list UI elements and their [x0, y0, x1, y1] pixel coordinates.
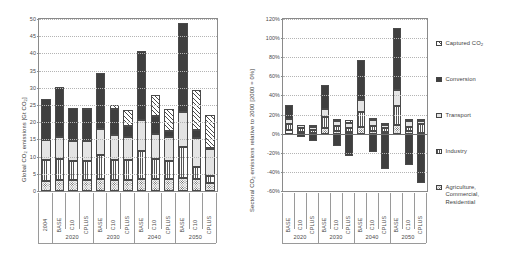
legend-item-transport[interactable]: Transport: [436, 112, 471, 119]
bar-segment-agri[interactable]: [55, 180, 65, 191]
bar-segment-captured[interactable]: [405, 119, 413, 121]
bar-segment-industry[interactable]: [309, 130, 317, 133]
bar-segment-captured[interactable]: [417, 119, 425, 121]
bar-segment-transport[interactable]: [151, 134, 161, 158]
legend-item-agri[interactable]: Agriculture,Commercial,Residential: [436, 184, 479, 206]
bar-segment-agri[interactable]: [393, 125, 401, 134]
bar-segment-conversion[interactable]: [405, 134, 413, 166]
bar-column[interactable]: [381, 19, 389, 191]
bar-segment-conversion[interactable]: [55, 87, 65, 137]
bar-segment-agri[interactable]: [82, 180, 92, 191]
bar-segment-agri[interactable]: [205, 183, 215, 191]
bar-segment-transport[interactable]: [381, 125, 389, 128]
bar-segment-captured[interactable]: [369, 118, 377, 120]
bar-segment-industry[interactable]: [96, 155, 106, 179]
bar-segment-industry[interactable]: [68, 161, 78, 180]
bar-segment-agri[interactable]: [137, 179, 147, 191]
bar-segment-transport[interactable]: [96, 129, 106, 155]
bar-segment-conversion[interactable]: [151, 116, 161, 134]
bar-segment-captured[interactable]: [205, 115, 215, 148]
bar-segment-transport[interactable]: [178, 112, 188, 147]
bar-segment-captured[interactable]: [164, 109, 174, 130]
bar-segment-transport[interactable]: [82, 141, 92, 161]
bar-segment-captured[interactable]: [192, 90, 202, 131]
bar-segment-transport[interactable]: [321, 109, 329, 118]
bar-segment-transport[interactable]: [285, 119, 293, 124]
legend-item-conversion[interactable]: Conversion: [436, 76, 476, 83]
bar-segment-transport[interactable]: [417, 121, 425, 124]
bar-segment-industry[interactable]: [417, 124, 425, 133]
bar-segment-industry[interactable]: [123, 160, 133, 179]
bar-segment-agri[interactable]: [192, 179, 202, 191]
bar-segment-agri[interactable]: [178, 178, 188, 191]
bar-segment-industry[interactable]: [55, 159, 65, 180]
bar-column[interactable]: [333, 19, 341, 191]
bar-segment-conversion[interactable]: [137, 51, 147, 120]
bar-segment-conversion[interactable]: [82, 109, 92, 141]
bar-segment-transport[interactable]: [68, 141, 78, 162]
bar-segment-transport[interactable]: [192, 138, 202, 167]
bar-segment-agri[interactable]: [164, 179, 174, 191]
bar-segment-conversion[interactable]: [68, 108, 78, 141]
bar-column[interactable]: [309, 19, 317, 191]
bar-segment-transport[interactable]: [137, 120, 147, 151]
bar-segment-conversion[interactable]: [96, 73, 106, 129]
bar-segment-industry[interactable]: [110, 160, 120, 180]
bar-column[interactable]: [297, 19, 305, 191]
bar-segment-transport[interactable]: [345, 123, 353, 128]
bar-segment-agri[interactable]: [41, 181, 51, 191]
bar-segment-captured[interactable]: [82, 108, 92, 110]
bar-segment-conversion[interactable]: [357, 60, 365, 100]
bar-segment-transport[interactable]: [297, 125, 305, 128]
bar-segment-transport[interactable]: [369, 120, 377, 126]
legend-item-industry[interactable]: Industry: [436, 148, 467, 155]
bar-segment-transport[interactable]: [333, 121, 341, 126]
bar-column[interactable]: [357, 19, 365, 191]
bar-segment-transport[interactable]: [357, 100, 365, 111]
bar-segment-industry[interactable]: [321, 117, 329, 128]
bar-segment-industry[interactable]: [41, 160, 51, 180]
bar-segment-conversion[interactable]: [417, 134, 425, 184]
bar-segment-conversion[interactable]: [321, 85, 329, 109]
bar-column[interactable]: [417, 19, 425, 191]
bar-segment-transport[interactable]: [393, 90, 401, 106]
bar-segment-conversion[interactable]: [381, 134, 389, 169]
bar-segment-conversion[interactable]: [309, 134, 317, 142]
bar-segment-captured[interactable]: [309, 125, 317, 127]
bar-segment-industry[interactable]: [164, 161, 174, 180]
bar-segment-industry[interactable]: [333, 126, 341, 131]
bar-segment-industry[interactable]: [405, 127, 413, 131]
bar-column[interactable]: [393, 19, 401, 191]
bar-column[interactable]: [369, 19, 377, 191]
bar-segment-conversion[interactable]: [285, 105, 293, 119]
bar-column[interactable]: [321, 19, 329, 191]
bar-segment-agri[interactable]: [357, 127, 365, 134]
bar-segment-conversion[interactable]: [192, 130, 202, 138]
bar-segment-transport[interactable]: [309, 127, 317, 130]
bar-segment-conversion[interactable]: [123, 126, 133, 137]
bar-segment-agri[interactable]: [110, 180, 120, 191]
legend-item-captured[interactable]: Captured CO2: [436, 40, 483, 47]
bar-segment-industry[interactable]: [381, 128, 389, 132]
bar-segment-industry[interactable]: [285, 124, 293, 130]
bar-segment-industry[interactable]: [151, 159, 161, 180]
bar-segment-agri[interactable]: [96, 179, 106, 191]
bar-column[interactable]: [405, 19, 413, 191]
bar-segment-agri[interactable]: [123, 180, 133, 191]
bar-segment-industry[interactable]: [369, 126, 377, 131]
bar-segment-transport[interactable]: [205, 149, 215, 176]
bar-segment-captured[interactable]: [345, 120, 353, 123]
bar-segment-industry[interactable]: [297, 128, 305, 132]
bar-segment-conversion[interactable]: [369, 134, 377, 152]
bar-segment-agri[interactable]: [151, 179, 161, 191]
bar-segment-captured[interactable]: [123, 110, 133, 126]
bar-segment-captured[interactable]: [381, 123, 389, 125]
bar-segment-conversion[interactable]: [393, 28, 401, 90]
bar-segment-industry[interactable]: [345, 128, 353, 132]
bar-segment-conversion[interactable]: [333, 134, 341, 146]
bar-column[interactable]: [285, 19, 293, 191]
bar-segment-agri[interactable]: [68, 180, 78, 191]
bar-column[interactable]: [345, 19, 353, 191]
bar-segment-industry[interactable]: [82, 161, 92, 180]
bar-segment-transport[interactable]: [405, 121, 413, 127]
